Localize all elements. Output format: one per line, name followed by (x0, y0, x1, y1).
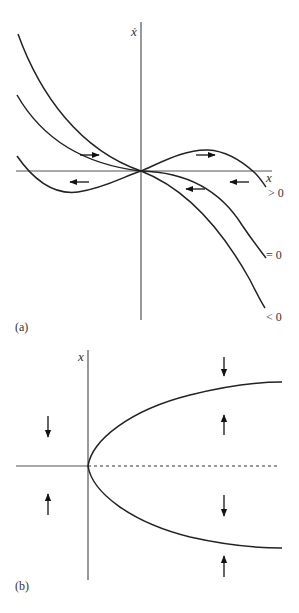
panel-b: x (b) (15, 349, 282, 593)
panel-a: ẋ x > 0 = 0 < 0 (a) (15, 22, 284, 334)
figure: ẋ x > 0 = 0 < 0 (a) x (b) (0, 0, 299, 613)
caption-a: (a) (15, 320, 28, 334)
caption-b: (b) (15, 579, 29, 593)
xdot-axis-label: ẋ (130, 24, 137, 39)
label-gt-zero: > 0 (268, 186, 284, 200)
label-eq-zero: = 0 (266, 248, 282, 262)
stable-branch-upper (88, 382, 282, 466)
x-axis-label: x (265, 170, 272, 185)
stable-branch-lower (88, 466, 282, 548)
x-axis-label: x (77, 349, 84, 364)
label-lt-zero: < 0 (266, 310, 282, 324)
